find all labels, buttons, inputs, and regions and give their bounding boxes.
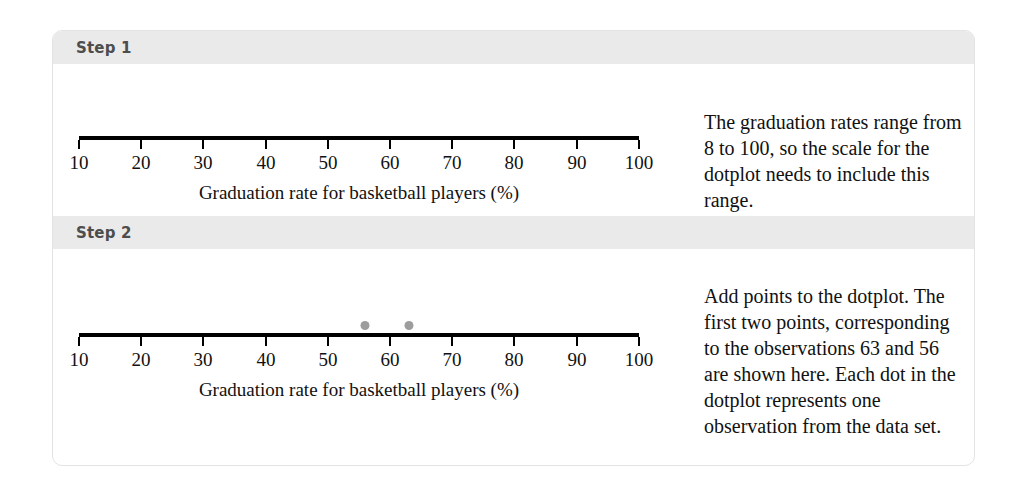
axis-tick-label-50: 50 bbox=[319, 349, 338, 371]
axis-tick-label-100: 100 bbox=[625, 349, 654, 371]
axis-tick-10 bbox=[78, 140, 80, 149]
axis-caption-1: Graduation rate for basketball players (… bbox=[79, 182, 639, 204]
axis-tick-label-20: 20 bbox=[132, 152, 151, 174]
axis-tick-label-30: 30 bbox=[194, 349, 213, 371]
step-header-label-1: Step 1 bbox=[76, 39, 132, 57]
step-explanation-1: The graduation rates range from 8 to 100… bbox=[704, 64, 962, 213]
steps-card: Step 1 10 20 30 bbox=[52, 30, 975, 466]
axis-tick-50 bbox=[327, 140, 329, 149]
dotplot-panel-2: 10 20 30 40 50 60 70 80 90 100 Graduatio… bbox=[53, 249, 690, 466]
step-body-2: 10 20 30 40 50 60 70 80 90 100 Graduatio… bbox=[53, 249, 974, 466]
data-dot-56 bbox=[361, 321, 370, 330]
axis-tick-90 bbox=[576, 140, 578, 149]
step-text-col-1: The graduation rates range from 8 to 100… bbox=[690, 64, 974, 213]
step-header-label-2: Step 2 bbox=[76, 224, 132, 242]
dotplot-panel-1: 10 20 30 40 50 60 70 80 90 100 Graduatio… bbox=[53, 64, 690, 216]
axis-tick-70 bbox=[451, 140, 453, 149]
axis-tick-label-10: 10 bbox=[70, 152, 89, 174]
axis-tick-label-10: 10 bbox=[70, 349, 89, 371]
axis-tick-label-60: 60 bbox=[381, 349, 400, 371]
axis-tick-30 bbox=[202, 140, 204, 149]
step-header-1: Step 1 bbox=[53, 31, 974, 64]
step-explanation-2: Add points to the dotplot. The first two… bbox=[704, 249, 962, 439]
axis-tick-label-60: 60 bbox=[381, 152, 400, 174]
axis-tick-label-80: 80 bbox=[505, 349, 524, 371]
axis-tick-70 bbox=[451, 337, 453, 346]
axis-tick-80 bbox=[513, 140, 515, 149]
page-root: Step 1 10 20 30 bbox=[0, 0, 1019, 486]
axis-tick-label-50: 50 bbox=[319, 152, 338, 174]
axis-tick-label-100: 100 bbox=[625, 152, 654, 174]
axis-tick-40 bbox=[265, 337, 267, 346]
axis-tick-label-80: 80 bbox=[505, 152, 524, 174]
axis-tick-50 bbox=[327, 337, 329, 346]
axis-tick-60 bbox=[389, 337, 391, 346]
axis-caption-2: Graduation rate for basketball players (… bbox=[79, 379, 639, 401]
axis-tick-label-90: 90 bbox=[568, 349, 587, 371]
axis-tick-80 bbox=[513, 337, 515, 346]
axis-tick-label-70: 70 bbox=[443, 152, 462, 174]
axis-tick-label-40: 40 bbox=[257, 152, 276, 174]
axis-tick-label-20: 20 bbox=[132, 349, 151, 371]
axis-tick-label-30: 30 bbox=[194, 152, 213, 174]
axis-tick-label-90: 90 bbox=[568, 152, 587, 174]
axis-line-1 bbox=[79, 136, 639, 140]
axis-line-2 bbox=[79, 333, 639, 337]
axis-tick-30 bbox=[202, 337, 204, 346]
axis-tick-100 bbox=[638, 337, 640, 346]
axis-tick-100 bbox=[638, 140, 640, 149]
axis-tick-20 bbox=[140, 140, 142, 149]
axis-tick-90 bbox=[576, 337, 578, 346]
step-body-1: 10 20 30 40 50 60 70 80 90 100 Graduatio… bbox=[53, 64, 974, 216]
axis-tick-10 bbox=[78, 337, 80, 346]
data-dot-63 bbox=[405, 321, 414, 330]
axis-tick-60 bbox=[389, 140, 391, 149]
axis-tick-40 bbox=[265, 140, 267, 149]
step-text-col-2: Add points to the dotplot. The first two… bbox=[690, 249, 974, 439]
axis-tick-label-70: 70 bbox=[443, 349, 462, 371]
axis-tick-label-40: 40 bbox=[257, 349, 276, 371]
axis-tick-20 bbox=[140, 337, 142, 346]
step-header-2: Step 2 bbox=[53, 216, 974, 249]
